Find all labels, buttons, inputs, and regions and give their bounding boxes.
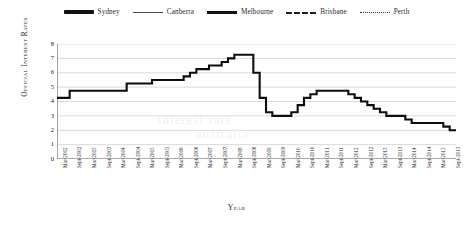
- y-tick-label: 0: [40, 156, 54, 163]
- legend-swatch-sydney: [64, 8, 94, 16]
- x-tick-label: Sept-2010: [309, 147, 315, 168]
- y-tick-label: 1: [40, 141, 54, 148]
- legend-label-canberra: Canberra: [167, 8, 194, 16]
- legend-item-sydney[interactable]: Sydney: [64, 8, 120, 16]
- legend-label-perth: Perth: [394, 8, 410, 16]
- x-tick-label: Mar-2013: [382, 147, 388, 168]
- x-tick-label: Sept-2004: [135, 147, 141, 168]
- y-axis-title: Official Interest Rates: [16, 0, 32, 115]
- x-tick-label: Mar-2003: [91, 147, 97, 168]
- x-tick-label: Sept-2012: [368, 147, 374, 168]
- x-tick-label: Sept-2014: [426, 147, 432, 168]
- x-tick-label: Mar-2010: [295, 147, 301, 168]
- legend-label-sydney: Sydney: [98, 8, 120, 16]
- legend-label-brisbane: Brisbane: [320, 8, 346, 16]
- x-axis-title: Year: [0, 203, 473, 212]
- chart-legend: Sydney Canberra Melbourne Brisbane Perth: [0, 4, 473, 20]
- x-tick-label: Sept-2003: [106, 147, 112, 168]
- y-tick-label: 5: [40, 84, 54, 91]
- x-tick-label: Mar-2009: [266, 147, 272, 168]
- x-tick-label: Mar-2015: [440, 147, 446, 168]
- legend-swatch-melbourne: [207, 8, 237, 16]
- x-tick-label: Sept-2007: [222, 147, 228, 168]
- y-tick-label: 7: [40, 55, 54, 62]
- x-tick-label: Sept-2013: [397, 147, 403, 168]
- legend-item-melbourne[interactable]: Melbourne: [207, 8, 273, 16]
- y-tick-label: 6: [40, 69, 54, 76]
- x-tick-label: Sept-2006: [193, 147, 199, 168]
- x-tick-label: Sept-2011: [338, 147, 344, 168]
- y-tick-label: 8: [40, 41, 54, 48]
- x-tick-label: Sept-2002: [76, 147, 82, 168]
- chart-figure: Sydney Canberra Melbourne Brisbane Perth…: [0, 0, 473, 225]
- chart-svg: [57, 44, 456, 159]
- legend-swatch-brisbane: [286, 8, 316, 16]
- x-tick-label: Mar-2008: [237, 147, 243, 168]
- y-tick-label: 3: [40, 113, 54, 120]
- legend-swatch-canberra: [133, 8, 163, 16]
- gridlines: [57, 44, 456, 145]
- x-tick-label: Mar-2007: [207, 147, 213, 168]
- legend-item-brisbane[interactable]: Brisbane: [286, 8, 346, 16]
- x-tick-label: Sept-2009: [280, 147, 286, 168]
- y-tick-label: 4: [40, 98, 54, 105]
- x-tick-label: Mar-2005: [149, 147, 155, 168]
- x-tick-label: Sept-2015: [455, 147, 461, 168]
- plot-area: [57, 44, 456, 159]
- legend-swatch-perth: [360, 8, 390, 16]
- x-tick-label: Mar-2006: [178, 147, 184, 168]
- legend-label-melbourne: Melbourne: [241, 8, 273, 16]
- x-tick-label: Sept-2008: [251, 147, 257, 168]
- x-tick-label: Sept-2005: [164, 147, 170, 168]
- x-tick-label: Mar-2004: [120, 147, 126, 168]
- legend-item-perth[interactable]: Perth: [360, 8, 410, 16]
- x-axis-ticks: Mar-2002Sept-2002Mar-2003Sept-2003Mar-20…: [57, 160, 456, 202]
- x-tick-label: Mar-2014: [411, 147, 417, 168]
- y-tick-label: 2: [40, 127, 54, 134]
- x-tick-label: Mar-2011: [324, 148, 330, 168]
- y-axis-ticks: 012345678: [38, 44, 54, 159]
- legend-item-canberra[interactable]: Canberra: [133, 8, 194, 16]
- x-tick-label: Mar-2002: [62, 147, 68, 168]
- series-lines: [57, 55, 456, 130]
- x-tick-label: Mar-2012: [353, 147, 359, 168]
